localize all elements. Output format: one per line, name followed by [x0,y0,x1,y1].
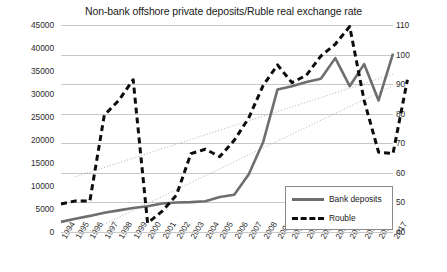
chart-title: Non-bank offshore private deposits/Ruble… [0,5,447,17]
y-tick-label-left: 30000 [2,89,54,99]
y-tick-label-right: 90 [396,79,444,89]
legend-label-bank-deposits: Bank deposits [329,194,382,204]
legend-swatch-solid-line-icon [292,198,324,201]
legend-swatch-dashed-line-icon [292,217,324,220]
y-tick-label-right: 80 [396,109,444,119]
y-tick-label-right: 110 [396,20,444,30]
chart-container: Non-bank offshore private deposits/Ruble… [0,0,447,272]
legend-item-bank-deposits: Bank deposits [292,192,382,206]
y-tick-label-right: 60 [396,168,444,178]
y-tick-label-left: 35000 [2,66,54,76]
y-tick-label-left: 15000 [2,158,54,168]
y-tick-label-left: 45000 [2,20,54,30]
y-tick-label-right: 50 [396,197,444,207]
y-tick-label-left: 20000 [2,135,54,145]
gridline [61,232,393,233]
trendline-trendline-upper [75,74,393,177]
y-tick-label-left: 5000 [2,204,54,214]
y-tick-label-right: 100 [396,50,444,60]
y-tick-label-left: 0 [2,227,54,237]
y-tick-label-left: 10000 [2,181,54,191]
y-tick-label-right: 70 [396,138,444,148]
chart-legend: Bank deposits Rouble [285,186,393,230]
legend-label-rouble: Rouble [329,213,356,223]
y-tick-label-left: 40000 [2,43,54,53]
legend-item-rouble: Rouble [292,211,356,225]
y-tick-label-left: 25000 [2,112,54,122]
